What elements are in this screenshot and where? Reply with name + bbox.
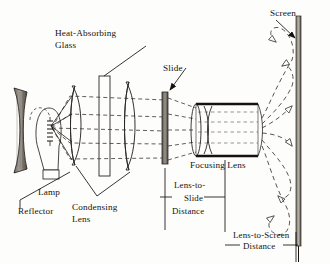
leader-heat-absorbing-glass <box>104 46 146 76</box>
label-heat-absorbing-glass-line1: Heat-Absorbing <box>55 28 117 38</box>
projector-diagram-svg: Heat-Absorbing Glass Slide Screen Lamp R… <box>0 0 330 264</box>
label-condensing-lens-line2: Lens <box>72 214 91 224</box>
light-rays-to-focusing-lens <box>168 98 196 160</box>
label-lens-to-slide-line3: Distance <box>172 206 204 216</box>
label-lens-to-screen-line2: Distance <box>243 241 275 251</box>
label-lens-to-slide-line1: Lens-to- <box>174 180 205 190</box>
label-lamp: Lamp <box>38 187 60 197</box>
optical-diagram-canvas: Heat-Absorbing Glass Slide Screen Lamp R… <box>0 0 330 264</box>
condenser-lens-element-1 <box>71 86 82 165</box>
label-lens-to-slide-line2: Slide <box>184 193 203 203</box>
label-slide: Slide <box>163 63 183 73</box>
label-condensing-lens-line1: Condensing <box>72 202 118 212</box>
label-reflector: Reflector <box>18 206 54 216</box>
focusing-lens-component <box>191 104 263 156</box>
heat-absorbing-glass-component <box>99 76 110 176</box>
condenser-lens-element-2 <box>125 82 136 170</box>
label-focusing-lens: Focusing Lens <box>190 160 246 170</box>
leader-screen <box>276 20 295 38</box>
label-screen: Screen <box>270 8 296 18</box>
projected-light-rays <box>262 27 293 234</box>
reflector-component <box>14 88 27 173</box>
label-heat-absorbing-glass-line2: Glass <box>55 40 76 50</box>
label-lens-to-screen-line1: Lens-to-Screen <box>233 230 290 240</box>
slide-component <box>162 92 168 164</box>
screen-component <box>296 16 301 262</box>
